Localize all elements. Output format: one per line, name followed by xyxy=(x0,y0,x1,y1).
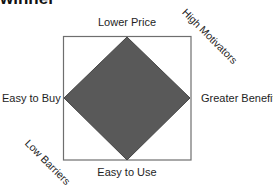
label-greater-benefits: Greater Benefits xyxy=(201,92,273,104)
label-easy-to-use: Easy to Use xyxy=(97,166,156,178)
label-easy-to-buy: Easy to Buy xyxy=(2,92,61,104)
label-lower-price: Lower Price xyxy=(98,16,156,28)
